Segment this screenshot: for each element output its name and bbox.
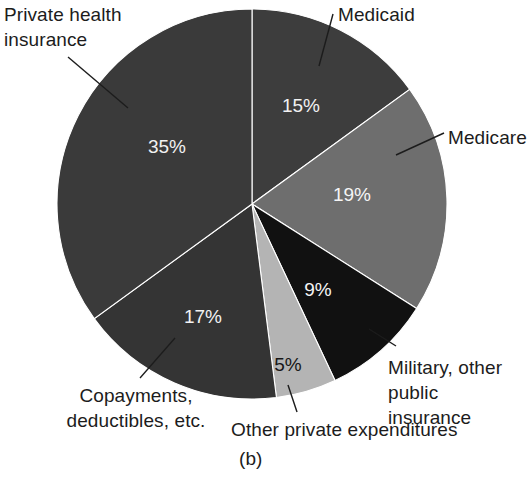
label-line: insurance: [4, 27, 174, 52]
slice-percent-medicaid: 15%: [282, 95, 320, 116]
slice-percent-copayments-deductibles-etc: 17%: [184, 306, 222, 327]
label-line: Medicare: [448, 125, 527, 150]
label-line: deductibles, etc.: [31, 408, 241, 433]
slice-label-medicaid: Medicaid: [338, 2, 415, 27]
label-line: Private health: [4, 2, 174, 27]
slice-label-medicare: Medicare: [448, 125, 527, 150]
slice-percent-medicare: 19%: [333, 184, 371, 205]
figure-caption: (b): [239, 446, 263, 471]
slice-percent-military-other-public-insurance: 9%: [304, 279, 332, 300]
slice-percent-private-health-insurance: 35%: [148, 136, 186, 157]
slice-percent-other-private-expenditures: 5%: [274, 354, 302, 375]
slice-label-copayments-deductibles-etc: Copayments,deductibles, etc.: [31, 383, 241, 433]
slice-label-other-private-expenditures: Other private expenditures: [231, 417, 458, 442]
label-line: Copayments,: [31, 383, 241, 408]
label-line: Medicaid: [338, 2, 415, 27]
slice-label-private-health-insurance: Private healthinsurance: [4, 2, 174, 52]
label-line: Other private expenditures: [231, 417, 458, 442]
label-line: Military, other: [388, 355, 524, 380]
